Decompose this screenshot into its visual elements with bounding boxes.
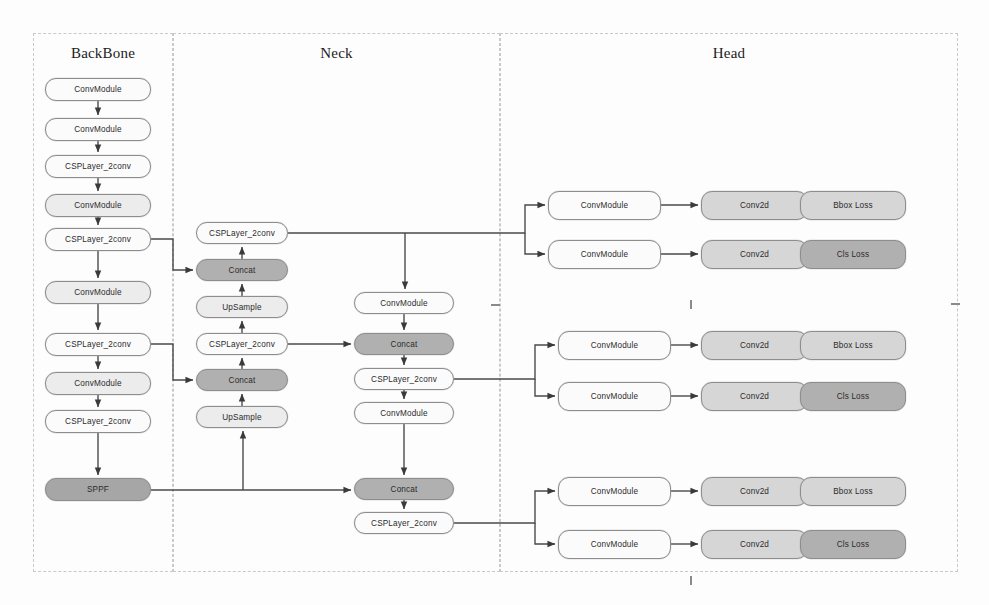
node-label: Conv2d [740, 487, 769, 496]
node-h2e[interactable]: Conv2d [701, 382, 808, 411]
node-nk5[interactable]: Concat [196, 369, 288, 391]
node-h3e[interactable]: Conv2d [701, 530, 808, 559]
node-label: ConvModule [74, 85, 121, 94]
node-label: ConvModule [74, 125, 121, 134]
node-label: Conv2d [740, 540, 769, 549]
node-label: SPPF [87, 485, 109, 494]
node-nk4[interactable]: CSPLayer_2conv [196, 333, 288, 355]
scan-mark-1 [690, 300, 692, 309]
node-nk2[interactable]: Concat [196, 259, 288, 281]
node-h1e[interactable]: Conv2d [701, 240, 808, 269]
scan-mark-0 [491, 304, 500, 306]
node-label: ConvModule [380, 409, 427, 418]
node-h2a[interactable]: ConvModule [558, 331, 671, 360]
panel-title-backbone: BackBone [33, 45, 173, 62]
node-label: CSPLayer_2conv [209, 229, 275, 238]
node-bb10[interactable]: SPPF [45, 478, 151, 501]
node-label: UpSample [222, 413, 261, 422]
node-bb9[interactable]: CSPLayer_2conv [45, 410, 151, 433]
node-label: Bbox Loss [833, 341, 873, 350]
node-h1a[interactable]: ConvModule [548, 191, 661, 220]
node-bb2[interactable]: ConvModule [45, 118, 151, 141]
node-label: CSPLayer_2conv [371, 375, 437, 384]
scan-mark-2 [951, 303, 960, 305]
node-bb4[interactable]: ConvModule [45, 194, 151, 217]
node-label: ConvModule [74, 379, 121, 388]
node-label: CSPLayer_2conv [65, 162, 131, 171]
node-label: Cls Loss [837, 540, 870, 549]
node-label: Conv2d [740, 250, 769, 259]
panel-title-neck: Neck [173, 45, 500, 62]
node-label: CSPLayer_2conv [65, 235, 131, 244]
node-h1c[interactable]: Bbox Loss [800, 191, 906, 220]
node-h3b[interactable]: Conv2d [701, 477, 808, 506]
diagram-canvas: BackBone Neck Head ConvModuleConvModuleC… [0, 0, 989, 605]
node-label: CSPLayer_2conv [65, 340, 131, 349]
node-bb6[interactable]: ConvModule [45, 281, 151, 304]
node-h3c[interactable]: Bbox Loss [800, 477, 906, 506]
node-label: UpSample [222, 303, 261, 312]
node-label: Concat [229, 266, 256, 275]
node-h1b[interactable]: Conv2d [701, 191, 808, 220]
node-label: ConvModule [380, 299, 427, 308]
node-label: ConvModule [591, 392, 638, 401]
node-h2d[interactable]: ConvModule [558, 382, 671, 411]
node-h2c[interactable]: Bbox Loss [800, 331, 906, 360]
node-nm2[interactable]: Concat [354, 333, 454, 355]
node-bb5[interactable]: CSPLayer_2conv [45, 228, 151, 251]
node-nm5[interactable]: Concat [354, 478, 454, 500]
node-nm6[interactable]: CSPLayer_2conv [354, 512, 454, 534]
node-label: Conv2d [740, 341, 769, 350]
node-nk6[interactable]: UpSample [196, 406, 288, 428]
node-nm3[interactable]: CSPLayer_2conv [354, 368, 454, 390]
node-label: ConvModule [74, 288, 121, 297]
node-nk3[interactable]: UpSample [196, 296, 288, 318]
node-label: Bbox Loss [833, 487, 873, 496]
node-label: Concat [391, 485, 418, 494]
node-label: Concat [391, 340, 418, 349]
node-label: CSPLayer_2conv [371, 519, 437, 528]
node-label: Cls Loss [837, 250, 870, 259]
node-label: ConvModule [581, 201, 628, 210]
node-h1d[interactable]: ConvModule [548, 240, 661, 269]
node-h3d[interactable]: ConvModule [558, 530, 671, 559]
node-nm1[interactable]: ConvModule [354, 292, 454, 314]
node-label: Conv2d [740, 392, 769, 401]
panel-title-head: Head [500, 45, 958, 62]
node-h1f[interactable]: Cls Loss [800, 240, 906, 269]
node-nm4[interactable]: ConvModule [354, 402, 454, 424]
node-label: CSPLayer_2conv [65, 417, 131, 426]
node-h3f[interactable]: Cls Loss [800, 530, 906, 559]
node-label: Cls Loss [837, 392, 870, 401]
node-nk1[interactable]: CSPLayer_2conv [196, 222, 288, 244]
node-bb1[interactable]: ConvModule [45, 78, 151, 101]
node-bb3[interactable]: CSPLayer_2conv [45, 155, 151, 178]
node-bb8[interactable]: ConvModule [45, 372, 151, 395]
node-label: Conv2d [740, 201, 769, 210]
node-h2f[interactable]: Cls Loss [800, 382, 906, 411]
node-bb7[interactable]: CSPLayer_2conv [45, 333, 151, 356]
node-label: Bbox Loss [833, 201, 873, 210]
node-label: CSPLayer_2conv [209, 340, 275, 349]
node-label: ConvModule [591, 540, 638, 549]
node-h2b[interactable]: Conv2d [701, 331, 808, 360]
node-label: Concat [229, 376, 256, 385]
node-label: ConvModule [591, 341, 638, 350]
node-h3a[interactable]: ConvModule [558, 477, 671, 506]
node-label: ConvModule [581, 250, 628, 259]
node-label: ConvModule [591, 487, 638, 496]
scan-mark-3 [690, 576, 692, 585]
node-label: ConvModule [74, 201, 121, 210]
